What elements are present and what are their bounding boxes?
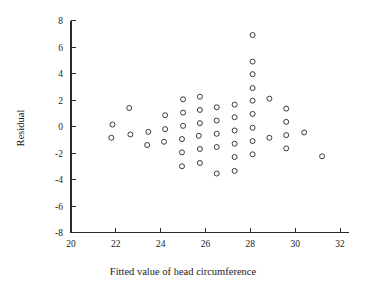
data-point — [109, 135, 114, 140]
data-point — [250, 86, 255, 91]
data-point — [214, 171, 219, 176]
y-tick-labels: 86420-2-4-6-8 — [55, 16, 63, 238]
data-point — [197, 147, 202, 152]
data-point — [250, 139, 255, 144]
data-point — [214, 131, 219, 136]
y-axis-title: Residual — [15, 110, 26, 147]
x-tick-label: 28 — [246, 239, 256, 249]
data-point — [232, 102, 237, 107]
y-tick-label: 0 — [58, 122, 63, 132]
data-point — [214, 105, 219, 110]
y-tick-label: -8 — [55, 228, 63, 238]
data-point — [197, 94, 202, 99]
x-tick-label: 24 — [156, 239, 166, 249]
data-point — [320, 154, 325, 159]
data-point — [250, 59, 255, 64]
y-tick-label: -6 — [55, 202, 63, 212]
data-point — [179, 137, 184, 142]
x-tick-label: 22 — [111, 239, 121, 249]
y-tick-label: 8 — [58, 16, 63, 26]
data-point — [232, 154, 237, 159]
data-points-layer — [109, 33, 325, 176]
data-point — [302, 130, 307, 135]
data-point — [284, 133, 289, 138]
x-tick-labels: 20222426283032 — [66, 239, 345, 249]
data-point — [267, 96, 272, 101]
data-point — [250, 152, 255, 157]
data-point — [232, 115, 237, 120]
data-point — [128, 132, 133, 137]
y-tick-label: -2 — [55, 149, 63, 159]
data-point — [146, 129, 151, 134]
data-point — [214, 145, 219, 150]
x-tick-label: 26 — [201, 239, 211, 249]
data-point — [267, 135, 272, 140]
data-point — [250, 111, 255, 116]
data-point — [250, 125, 255, 130]
scatter-plot-canvas: 20222426283032 86420-2-4-6-8 Fitted valu… — [0, 0, 367, 285]
data-point — [250, 33, 255, 38]
x-axis-title: Fitted value of head circumference — [110, 266, 257, 277]
data-point — [162, 139, 167, 144]
data-point — [179, 150, 184, 155]
data-point — [163, 113, 168, 118]
data-point — [179, 164, 184, 169]
data-point — [232, 141, 237, 146]
y-tick-label: 4 — [58, 69, 63, 79]
data-point — [196, 133, 201, 138]
data-point — [163, 127, 168, 132]
data-point — [181, 110, 186, 115]
y-tick-label: -4 — [55, 175, 63, 185]
data-point — [250, 98, 255, 103]
x-tick-label: 30 — [290, 239, 300, 249]
data-point — [181, 97, 186, 102]
data-point — [145, 143, 150, 148]
data-point — [110, 122, 115, 127]
data-point — [127, 105, 132, 110]
x-tick-label: 20 — [66, 239, 76, 249]
data-point — [284, 146, 289, 151]
data-point — [197, 107, 202, 112]
x-tick-label: 32 — [335, 239, 345, 249]
data-point — [284, 106, 289, 111]
data-point — [197, 160, 202, 165]
data-point — [232, 128, 237, 133]
y-tick-label: 6 — [58, 43, 63, 53]
data-point — [197, 121, 202, 126]
data-point — [181, 123, 186, 128]
residual-scatter-figure: 20222426283032 86420-2-4-6-8 Fitted valu… — [0, 0, 367, 285]
y-tick-label: 2 — [58, 96, 63, 106]
data-point — [232, 168, 237, 173]
data-point — [284, 119, 289, 124]
data-point — [250, 72, 255, 77]
data-point — [214, 118, 219, 123]
